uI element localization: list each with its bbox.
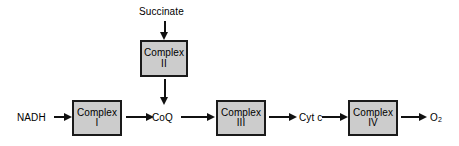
electron-transport-chain-diagram: Succinate Complex II NADH Complex I CoQ … xyxy=(0,0,459,146)
arrow-complex-ii-to-coq xyxy=(160,79,169,105)
label-coq: CoQ xyxy=(152,112,173,123)
arrow-complex-i-to-coq xyxy=(126,113,154,122)
node-complex-iv-line2: IV xyxy=(368,118,378,129)
node-complex-i-line2: I xyxy=(96,118,99,129)
node-complex-i[interactable]: Complex I xyxy=(72,100,122,136)
label-succinate: Succinate xyxy=(139,6,184,17)
arrow-complex-iv-to-oxygen xyxy=(401,113,427,122)
arrow-coq-to-complex-iii xyxy=(181,113,215,122)
arrow-succinate-to-complex-ii xyxy=(160,21,169,40)
arrow-head xyxy=(419,113,427,121)
node-complex-iv[interactable]: Complex IV xyxy=(348,100,398,136)
arrow-shaft xyxy=(322,116,341,118)
arrow-cyt-c-to-complex-iv xyxy=(322,113,348,122)
arrow-shaft xyxy=(126,116,147,118)
label-oxygen: O2 xyxy=(430,112,442,123)
arrow-head xyxy=(289,113,297,121)
label-nadh: NADH xyxy=(17,112,46,123)
arrow-shaft xyxy=(164,79,166,98)
node-complex-ii[interactable]: Complex II xyxy=(140,40,188,77)
node-complex-ii-line2: II xyxy=(161,59,167,70)
arrow-shaft xyxy=(401,116,420,118)
label-oxygen-element: O xyxy=(430,112,438,123)
node-complex-ii-line1: Complex xyxy=(144,48,184,59)
arrow-shaft xyxy=(269,116,290,118)
arrow-head xyxy=(340,113,348,121)
arrow-complex-iii-to-cyt-c xyxy=(269,113,297,122)
arrow-shaft xyxy=(181,116,208,118)
arrow-head xyxy=(160,32,168,40)
arrow-head xyxy=(207,113,215,121)
label-cyt-c: Cyt c xyxy=(299,112,322,123)
arrow-head xyxy=(160,97,168,105)
label-oxygen-subscript: 2 xyxy=(438,116,442,123)
arrow-head xyxy=(64,113,72,121)
node-complex-iii[interactable]: Complex III xyxy=(216,100,266,136)
node-complex-iii-line2: III xyxy=(237,118,246,129)
arrow-nadh-to-complex-i xyxy=(54,113,72,122)
